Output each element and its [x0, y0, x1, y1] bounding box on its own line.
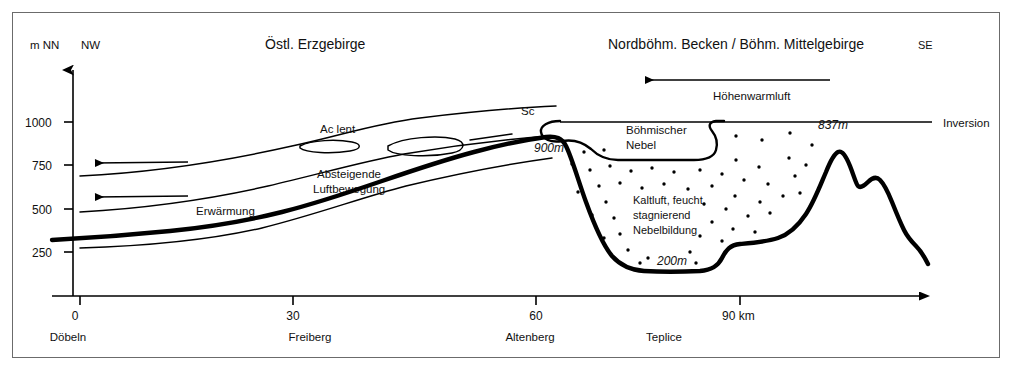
x-axis-ticks: [80, 296, 740, 305]
place-label-freiberg: Freiberg: [289, 331, 332, 343]
elevation-label-837m: 837m: [818, 118, 848, 132]
nebel-label: Nebel: [626, 139, 656, 151]
place-label-doebeln: Döbeln: [50, 331, 86, 343]
ac-lent-streak: [470, 134, 512, 140]
cross-section-diagram: m NN NW Östl. Erzgebirge Nordböhm. Becke…: [0, 0, 1012, 366]
elevation-label-900m: 900m: [534, 141, 564, 155]
descending-air-arrow-lower: [95, 196, 188, 197]
region-title-left: Östl. Erzgebirge: [265, 35, 366, 52]
y-tick-label-500: 500: [32, 203, 52, 217]
hoehenwarmluft-label: Höhenwarmluft: [713, 90, 791, 102]
x-tick-label-60: 60: [529, 309, 543, 323]
absteigende-label: Absteigende: [317, 168, 381, 180]
y-tick-label-750: 750: [32, 159, 52, 173]
y-axis-ticks: [64, 122, 73, 252]
sc-label: Sc: [521, 105, 535, 117]
kaltluft-label: Kaltluft, feucht,: [633, 194, 706, 206]
ac-lent-cloud-small: [300, 140, 359, 152]
y-tick-label-1000: 1000: [25, 116, 52, 130]
stagnierend-label: stagnierend: [633, 209, 691, 221]
descending-air-arrow-upper: [95, 162, 188, 163]
figure-root: m NN NW Östl. Erzgebirge Nordböhm. Becke…: [0, 0, 1012, 366]
x-tick-label-0: 0: [72, 309, 79, 323]
place-label-teplice: Teplice: [646, 331, 682, 343]
ac-lent-label: Ac lent: [320, 123, 356, 135]
inversion-label: Inversion: [943, 117, 990, 129]
terrain-profile-line: [52, 137, 928, 272]
nebelbildung-label: Nebelbildung: [633, 224, 697, 236]
elevation-label-200m: 200m: [656, 254, 687, 268]
boehmischer-label: Böhmischer: [626, 124, 687, 136]
compass-label-nw: NW: [81, 39, 100, 51]
region-title-right: Nordböhm. Becken / Böhm. Mittelgebirge: [608, 36, 864, 52]
place-label-altenberg: Altenberg: [505, 331, 554, 343]
y-tick-label-250: 250: [32, 246, 52, 260]
x-tick-label-30: 30: [286, 309, 300, 323]
erwaermung-label: Erwärmung: [196, 205, 255, 217]
y-axis-unit-label: m NN: [30, 39, 59, 51]
upper-flow-boundary-mid: [80, 136, 548, 212]
compass-label-se: SE: [918, 39, 933, 51]
x-tick-label-90km: 90 km: [722, 309, 755, 323]
